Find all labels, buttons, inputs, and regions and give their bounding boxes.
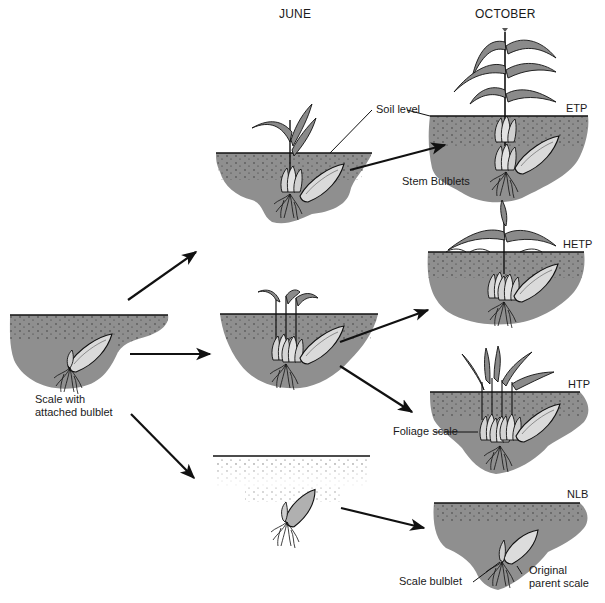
- june-bottom-section: [213, 456, 370, 548]
- label-scale-with-line1: Scale with: [35, 393, 85, 406]
- label-etp: ETP: [566, 102, 587, 115]
- arrow-start-to-june-top: [128, 252, 196, 300]
- column-header-october: OCTOBER: [475, 7, 536, 21]
- oct-hetp-section: [428, 200, 585, 328]
- arrow-start-to-june-bottom: [131, 414, 194, 478]
- label-htp: HTP: [568, 378, 590, 391]
- label-scale-bulblet: Scale bulblet: [399, 575, 462, 588]
- arrow-june-bottom-to-nlb: [341, 508, 424, 528]
- label-hetp: HETP: [563, 238, 592, 251]
- june-top-section: [216, 104, 372, 223]
- label-original-line2: parent scale: [529, 577, 589, 590]
- diagram-canvas: [0, 0, 605, 603]
- label-foliage-scale: Foliage scale: [393, 425, 458, 438]
- label-scale-with-line2: attached bulblet: [35, 406, 113, 419]
- label-nlb: NLB: [567, 488, 588, 501]
- label-original-line1: Original: [529, 564, 567, 577]
- label-soil-level: Soil level: [376, 103, 420, 116]
- label-stem-bulblets: Stem Bulblets: [402, 175, 470, 188]
- oct-htp-section: [430, 346, 588, 474]
- column-header-june: JUNE: [279, 7, 311, 21]
- arrow-june-middle-to-htp: [340, 366, 412, 412]
